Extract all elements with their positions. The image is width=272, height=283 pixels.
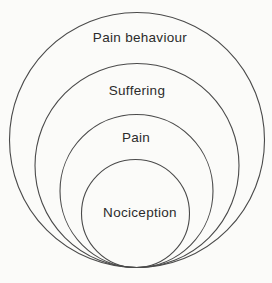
ring-label-pain: Pain xyxy=(122,130,150,145)
ring-label-pain-behaviour: Pain behaviour xyxy=(93,30,187,45)
ring-label-suffering: Suffering xyxy=(109,83,166,98)
pain-model-diagram: Pain behaviour Suffering Pain Nociceptio… xyxy=(0,0,272,283)
ring-label-nociception: Nociception xyxy=(103,205,177,220)
nested-circles-figure: Pain behaviour Suffering Pain Nociceptio… xyxy=(0,0,272,283)
